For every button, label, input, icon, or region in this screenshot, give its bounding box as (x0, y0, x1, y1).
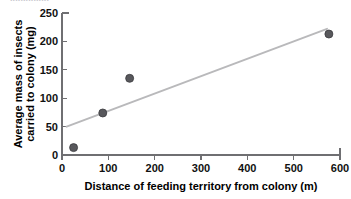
y-axis-title-line2: carried to colony (mg) (24, 26, 36, 142)
data-point[interactable] (99, 109, 107, 117)
y-axis-title-line1: Average mass of insects (12, 20, 24, 149)
x-tick-label-0: 0 (59, 162, 65, 174)
x-axis-title: Distance of feeding territory from colon… (85, 180, 318, 192)
y-tick-label-50: 50 (46, 121, 58, 133)
y-axis-ticks (62, 13, 67, 155)
x-tick-label-400: 400 (238, 162, 256, 174)
x-tick-label-500: 500 (285, 162, 303, 174)
y-tick-label-100: 100 (40, 92, 58, 104)
x-tick-label-200: 200 (146, 162, 164, 174)
x-axis-ticks (62, 155, 340, 160)
y-tick-label-200: 200 (40, 35, 58, 47)
axes-group (62, 13, 340, 155)
y-tick-label-250: 250 (40, 7, 58, 19)
data-point[interactable] (126, 74, 134, 82)
x-axis-tick-labels: 0 100 200 300 400 500 600 (59, 162, 349, 174)
data-point[interactable] (70, 144, 78, 152)
scatter-plot-svg: 250 200 150 100 50 0 0 100 200 300 400 5… (0, 0, 351, 199)
chart-figure: ............... 250 200 150 100 50 0 (0, 0, 351, 199)
data-points-group (70, 30, 333, 152)
x-tick-label-600: 600 (331, 162, 349, 174)
x-tick-label-100: 100 (99, 162, 117, 174)
x-tick-label-300: 300 (192, 162, 210, 174)
y-tick-label-0: 0 (52, 149, 58, 161)
y-axis-tick-labels: 250 200 150 100 50 0 (40, 7, 58, 161)
cropped-caption-fragment: ............... (10, 0, 49, 1)
y-tick-label-150: 150 (40, 64, 58, 76)
data-point[interactable] (325, 30, 333, 38)
